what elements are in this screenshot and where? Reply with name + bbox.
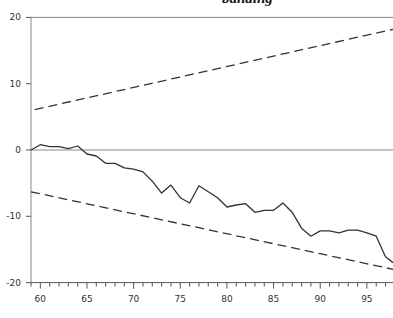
x-tick-label: 90: [315, 294, 327, 304]
band-line: [35, 29, 393, 109]
x-tick-label: 85: [268, 294, 279, 304]
y-tick-label: 10: [10, 79, 22, 89]
y-tick-label: -20: [6, 278, 21, 288]
x-tick-label: 70: [128, 294, 140, 304]
x-tick-label: 75: [175, 294, 186, 304]
x-tick-label: 95: [361, 294, 372, 304]
y-tick-label: 0: [15, 145, 21, 155]
y-tick-label: -10: [6, 211, 21, 221]
x-tick-label: 60: [35, 294, 47, 304]
x-tick-label: 80: [221, 294, 233, 304]
series-line: [31, 145, 393, 263]
x-tick-label: 65: [81, 294, 92, 304]
line-chart: 20100-10-206065707580859095: [0, 0, 393, 318]
band-line: [31, 192, 393, 269]
y-tick-label: 20: [10, 12, 22, 22]
